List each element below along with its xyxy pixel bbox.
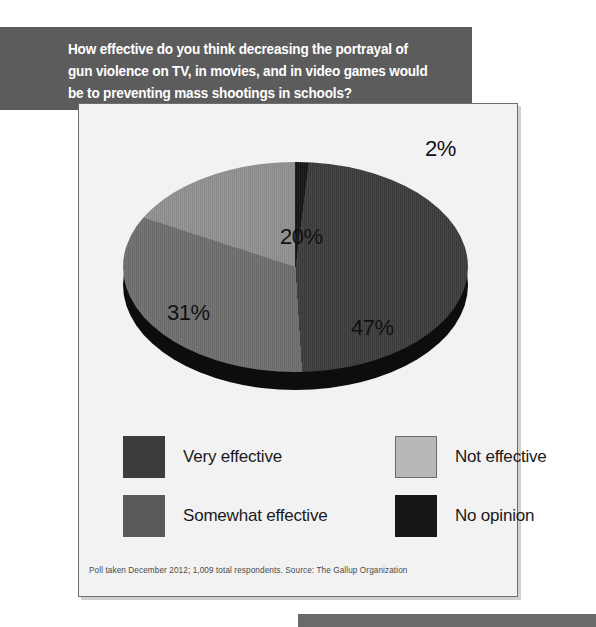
pie-label-very-effective: 47% (351, 315, 394, 341)
clipped-text-remnant (0, 0, 596, 5)
legend-swatch-somewhat-effective (123, 495, 165, 537)
chart-panel: 47% 31% 20% 2% Very effective Somewhat e… (78, 103, 518, 597)
legend-swatch-very-effective (123, 436, 165, 478)
legend-label-somewhat-effective: Somewhat effective (183, 506, 327, 526)
legend-item-somewhat-effective: Somewhat effective (123, 495, 327, 537)
legend-item-very-effective: Very effective (123, 436, 282, 478)
pie-label-no-opinion: 2% (425, 136, 456, 162)
chart-legend: Very effective Somewhat effective Not ef… (123, 436, 483, 544)
pie-face (123, 162, 468, 372)
question-banner: How effective do you think decreasing th… (0, 27, 472, 110)
pie-chart: 47% 31% 20% 2% (115, 132, 483, 422)
pie-label-somewhat-effective: 31% (167, 300, 210, 326)
legend-label-not-effective: Not effective (455, 447, 547, 467)
legend-item-not-effective: Not effective (395, 436, 547, 478)
next-section-bar (298, 614, 596, 627)
legend-item-no-opinion: No opinion (395, 495, 534, 537)
legend-label-very-effective: Very effective (183, 447, 282, 467)
question-title: How effective do you think decreasing th… (68, 38, 429, 104)
source-footnote: Poll taken December 2012; 1,009 total re… (89, 566, 407, 575)
legend-swatch-no-opinion (395, 495, 437, 537)
pie-label-not-effective: 20% (280, 224, 323, 250)
legend-label-no-opinion: No opinion (455, 506, 534, 526)
legend-swatch-not-effective (395, 436, 437, 478)
